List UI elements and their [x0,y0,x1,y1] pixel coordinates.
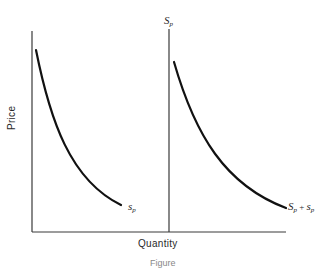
curve-Sp-plus-sp [174,62,286,208]
curve-Sp-plus-sp-label: Sp + sp [288,200,314,214]
x-axis-label: Quantity [138,238,178,249]
sp-line-label: Sp [164,14,173,28]
curve-sp [36,50,121,205]
curve-sp-label: sp [128,200,136,214]
y-axis-label: Price [6,106,17,130]
figure-caption: Figure [150,258,176,268]
